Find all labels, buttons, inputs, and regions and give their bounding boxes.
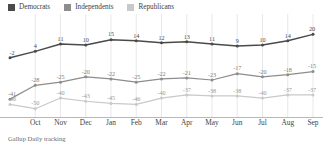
data-point[interactable]	[84, 75, 87, 78]
data-point[interactable]	[261, 97, 264, 100]
data-point[interactable]	[160, 97, 163, 100]
data-label: 9	[236, 37, 239, 44]
chart-legend: DemocratsIndependentsRepublicans	[8, 2, 174, 14]
legend-swatch-icon	[8, 4, 15, 11]
data-label: -22	[157, 70, 165, 77]
x-axis-tick-apr: Apr	[181, 118, 193, 127]
data-point[interactable]	[84, 43, 87, 46]
data-label: -21	[183, 69, 191, 76]
data-point[interactable]	[135, 39, 138, 42]
chart-container: DemocratsIndependentsRepublicans -241110…	[0, 0, 323, 150]
data-point[interactable]	[236, 94, 239, 97]
data-label: 13	[184, 33, 190, 40]
data-point[interactable]	[286, 93, 289, 96]
data-label: -25	[56, 73, 64, 80]
data-label: 20	[309, 25, 315, 32]
data-point[interactable]	[185, 76, 188, 79]
data-label: -22	[107, 70, 115, 77]
data-label: 14	[133, 32, 139, 39]
data-label: -40	[157, 89, 165, 96]
x-axis-tick-aug: Aug	[281, 118, 294, 127]
data-label: 11	[209, 35, 215, 42]
data-label: 15	[108, 30, 114, 37]
data-point[interactable]	[286, 73, 289, 76]
data-label: -38	[233, 87, 241, 94]
legend-item-democrats[interactable]: Democrats	[8, 4, 50, 11]
x-axis-tick-jan: Jan	[106, 118, 116, 127]
data-label: 10	[83, 36, 89, 43]
legend-item-republicans[interactable]: Republicans	[127, 4, 174, 11]
data-label: -20	[82, 68, 90, 75]
data-label: -38	[208, 87, 216, 94]
x-axis-labels: OctNovDecJanFebMarAprMayJunJulAugSep	[0, 118, 323, 132]
data-label: -2	[9, 49, 14, 56]
x-axis-tick-mar: Mar	[155, 118, 167, 127]
data-label: -15	[308, 62, 316, 69]
x-axis-tick-jul: Jul	[258, 118, 267, 127]
data-label: -25	[132, 73, 140, 80]
data-label: -28	[31, 76, 39, 83]
data-point[interactable]	[160, 41, 163, 44]
data-point[interactable]	[59, 97, 62, 100]
data-point[interactable]	[135, 81, 138, 84]
data-point[interactable]	[312, 93, 315, 96]
data-point[interactable]	[236, 45, 239, 48]
data-label: -40	[56, 89, 64, 96]
x-axis-tick-dec: Dec	[80, 118, 92, 127]
data-point[interactable]	[84, 100, 87, 103]
data-label: -43	[82, 92, 90, 99]
data-label: 11	[58, 35, 64, 42]
data-point[interactable]	[34, 84, 37, 87]
x-axis-tick-nov: Nov	[54, 118, 67, 127]
data-point[interactable]	[9, 103, 12, 106]
data-label: -50	[31, 99, 39, 106]
data-label: -45	[107, 94, 115, 101]
x-axis-tick-oct: Oct	[30, 118, 41, 127]
data-label: -37	[308, 86, 316, 93]
legend-swatch-icon	[127, 4, 134, 11]
data-point[interactable]	[34, 50, 37, 53]
data-point[interactable]	[312, 70, 315, 73]
data-label: -37	[284, 86, 292, 93]
data-point[interactable]	[59, 81, 62, 84]
data-point[interactable]	[110, 77, 113, 80]
data-point[interactable]	[236, 72, 239, 75]
data-point[interactable]	[211, 94, 214, 97]
data-label: -23	[208, 71, 216, 78]
x-axis-tick-sep: Sep	[307, 118, 318, 127]
data-point[interactable]	[261, 75, 264, 78]
x-axis-tick-may: May	[205, 118, 219, 127]
legend-swatch-icon	[64, 4, 71, 11]
data-point[interactable]	[110, 102, 113, 105]
data-label: 10	[259, 36, 265, 43]
data-label: -18	[284, 66, 292, 73]
legend-label: Republicans	[138, 4, 174, 11]
data-point[interactable]	[110, 38, 113, 41]
data-point[interactable]	[261, 43, 264, 46]
data-label: -46	[8, 95, 16, 102]
data-point[interactable]	[160, 77, 163, 80]
data-label: 4	[34, 42, 37, 49]
x-axis-tick-feb: Feb	[131, 118, 142, 127]
data-point[interactable]	[286, 39, 289, 42]
data-label: -40	[258, 89, 266, 96]
data-label: 14	[285, 32, 291, 39]
data-label: -20	[258, 68, 266, 75]
data-point[interactable]	[211, 42, 214, 45]
data-point[interactable]	[59, 42, 62, 45]
data-label: -37	[183, 86, 191, 93]
data-point[interactable]	[312, 33, 315, 36]
x-axis-tick-jun: Jun	[232, 118, 242, 127]
data-point[interactable]	[9, 56, 12, 59]
legend-label: Democrats	[19, 4, 50, 11]
data-label: 12	[158, 34, 164, 41]
data-point[interactable]	[185, 93, 188, 96]
data-point[interactable]	[135, 103, 138, 106]
data-point[interactable]	[211, 79, 214, 82]
legend-item-independents[interactable]: Independents	[64, 4, 113, 11]
data-point[interactable]	[34, 107, 37, 110]
data-point[interactable]	[185, 40, 188, 43]
data-label: -17	[233, 64, 241, 71]
legend-label: Independents	[75, 4, 113, 11]
chart-plot-area: -24111015141213119101420-41-28-25-20-22-…	[0, 14, 323, 118]
